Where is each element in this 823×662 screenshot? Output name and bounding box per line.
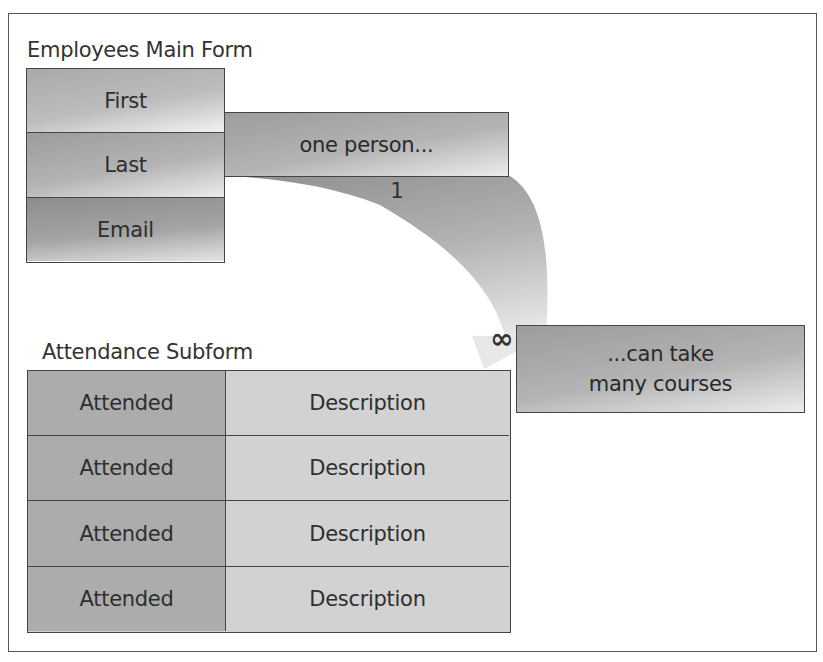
field-email-label: Email <box>97 218 154 242</box>
callout-many-line2: many courses <box>589 369 732 399</box>
description-label: Description <box>309 456 425 480</box>
attended-label: Attended <box>80 391 174 415</box>
description-label: Description <box>309 391 425 415</box>
many-side-symbol: ∞ <box>490 322 513 355</box>
attended-label: Attended <box>80 456 174 480</box>
subform-title: Attendance Subform <box>42 340 253 364</box>
subform-row-2-description: Description <box>226 436 509 501</box>
subform-row-1-description: Description <box>226 371 509 436</box>
attended-label: Attended <box>80 522 174 546</box>
subform-row-3-attended: Attended <box>28 501 226 567</box>
main-form-box: First Last Email <box>26 68 225 263</box>
one-side-symbol: 1 <box>390 178 403 203</box>
field-last-label: Last <box>104 153 147 177</box>
subform-row-1-attended: Attended <box>28 371 226 436</box>
subform-row-3-description: Description <box>226 501 509 567</box>
field-email: Email <box>27 198 224 261</box>
description-label: Description <box>309 522 425 546</box>
subform-row-4-attended: Attended <box>28 567 226 631</box>
callout-one-person-text: one person... <box>300 133 434 157</box>
subform-row-4-description: Description <box>226 567 509 631</box>
subform-row-2-attended: Attended <box>28 436 226 501</box>
field-last: Last <box>27 133 224 198</box>
callout-many-line1: ...can take <box>607 339 714 369</box>
callout-many-courses: ...can take many courses <box>516 325 805 413</box>
attended-label: Attended <box>80 587 174 611</box>
description-label: Description <box>309 587 425 611</box>
main-form-title: Employees Main Form <box>27 38 253 62</box>
field-first: First <box>27 69 224 133</box>
subform-table: Attended Description Attended Descriptio… <box>27 370 511 633</box>
field-first-label: First <box>104 89 147 113</box>
callout-one-person: one person... <box>224 112 509 177</box>
